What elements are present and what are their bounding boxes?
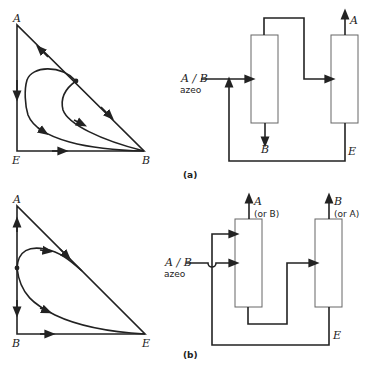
column-2	[331, 35, 358, 123]
flowsheet-b: A / B azeo A (or B) B (or A) E (b)	[164, 195, 359, 360]
column1-bottom-label: B	[260, 143, 269, 156]
feed-sublabel: azeo	[164, 269, 186, 279]
vertex-label-top: A	[12, 193, 21, 206]
column1-top-label: A	[253, 195, 262, 208]
column1-top-sublabel: (or B)	[254, 209, 279, 219]
feed-label: A / B	[164, 256, 192, 269]
residue-curve-map-a: A E B	[11, 12, 150, 167]
column2-top-sublabel: (or A)	[334, 209, 359, 219]
vertex-label-top: A	[12, 12, 21, 25]
recycle-label: E	[332, 329, 341, 342]
azeotrope-dot	[15, 266, 20, 271]
vertex-label-bottom-left: E	[11, 154, 20, 167]
recycle-label: E	[347, 145, 356, 158]
saddle-point-dot	[74, 79, 79, 84]
column-1	[251, 35, 278, 123]
flowsheet-a: A / B azeo B A E (a)	[180, 14, 358, 180]
residue-curve-map-b: A B E	[11, 193, 150, 350]
feed-label: A / B	[180, 72, 208, 85]
vertex-label-bottom-left: B	[11, 337, 20, 350]
caption-b: (b)	[183, 350, 198, 360]
vertex-label-bottom-right: B	[141, 154, 150, 167]
column-2	[315, 219, 342, 307]
column2-top-label: A	[349, 14, 358, 27]
column2-top-label: B	[333, 195, 342, 208]
diagram-canvas: A E B A / B azeo B A E (a)	[0, 0, 367, 366]
feed-sublabel: azeo	[180, 85, 202, 95]
column-1	[235, 219, 262, 307]
caption-a: (a)	[183, 170, 197, 180]
vertex-label-bottom-right: E	[141, 337, 150, 350]
